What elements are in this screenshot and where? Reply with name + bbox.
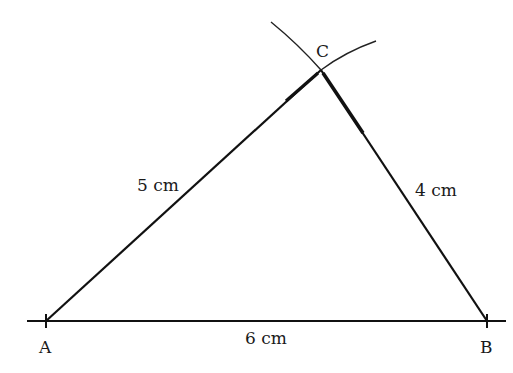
side-label-ac: 5 cm bbox=[137, 177, 179, 194]
side-ac bbox=[46, 70, 321, 321]
side-label-cb: 4 cm bbox=[415, 182, 457, 199]
side-cb-emphasis bbox=[323, 73, 363, 133]
vertex-label-a: A bbox=[39, 339, 51, 356]
vertex-label-b: B bbox=[480, 339, 493, 356]
vertex-label-c: C bbox=[316, 43, 329, 60]
arc-from-b bbox=[321, 41, 376, 70]
triangle-construction-diagram: A B C 5 cm 4 cm 6 cm bbox=[0, 0, 513, 373]
side-label-ab: 6 cm bbox=[245, 330, 287, 347]
arc-from-a bbox=[271, 22, 321, 70]
side-ac-emphasis bbox=[286, 73, 318, 101]
